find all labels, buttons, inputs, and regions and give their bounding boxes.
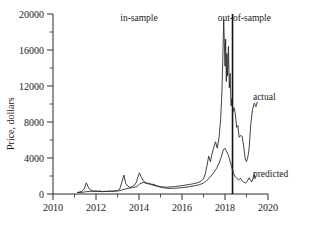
y-tick-label: 20000 [19, 9, 44, 20]
y-tick-label: 8000 [24, 117, 44, 128]
x-tick-label: 2020 [258, 202, 278, 213]
x-tick-label: 2012 [86, 202, 106, 213]
y-axis-ticks [47, 14, 53, 194]
y-tick-label: 0 [39, 189, 44, 200]
price-forecast-line-chart: Price, dollars 040008000120001600020000 … [0, 0, 321, 228]
y-axis-title-text: Price, dollars [5, 97, 16, 150]
y-axis-tick-labels: 040008000120001600020000 [19, 9, 44, 200]
annotation-out-of-sample: out-of-sample [218, 13, 271, 23]
x-tick-label: 2010 [43, 202, 63, 213]
series-line-actual [78, 19, 258, 192]
x-tick-label: 2014 [129, 202, 149, 213]
x-axis-tick-labels: 201020122014201620182020 [43, 202, 278, 213]
series-line-predicted [78, 148, 256, 193]
y-tick-label: 16000 [19, 45, 44, 56]
x-tick-label: 2016 [172, 202, 192, 213]
y-axis-title: Price, dollars [5, 97, 16, 150]
chart-figure: Price, dollars 040008000120001600020000 … [0, 0, 321, 228]
series-label-predicted: predicted [253, 169, 289, 179]
annotation-in-sample: in-sample [120, 13, 157, 23]
series-label-actual: actual [253, 92, 276, 102]
y-tick-label: 12000 [19, 81, 44, 92]
y-tick-label: 4000 [24, 153, 44, 164]
x-tick-label: 2018 [215, 202, 235, 213]
series-lines [78, 19, 258, 192]
x-axis-ticks [53, 194, 268, 200]
axes [53, 14, 268, 194]
